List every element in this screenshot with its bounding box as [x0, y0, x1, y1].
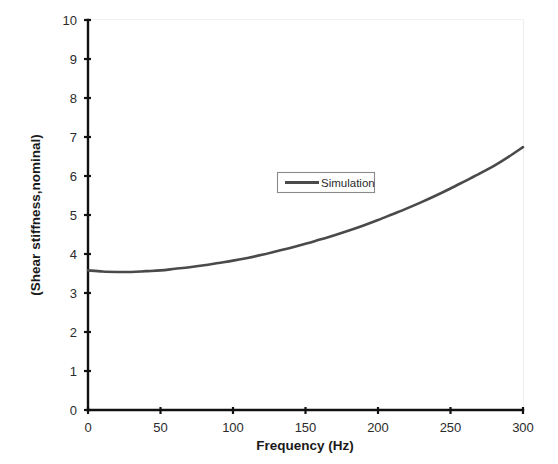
y-tick-label: 7: [70, 130, 77, 145]
y-tick-label: 4: [70, 247, 77, 262]
chart-figure: 012345678910 050100150200250300 Simulati…: [0, 0, 558, 464]
y-tick-label: 0: [70, 403, 77, 418]
y-tick-label: 10: [63, 13, 77, 28]
x-axis-title: Frequency (Hz): [256, 438, 354, 453]
y-tick-label: 1: [70, 364, 77, 379]
y-tick-label: 2: [70, 325, 77, 340]
plot-area-background: [88, 20, 523, 410]
y-tick-label: 5: [70, 208, 77, 223]
x-tick-label: 200: [367, 420, 389, 435]
line-chart: 012345678910 050100150200250300 Simulati…: [0, 0, 558, 464]
x-tick-label: 300: [512, 420, 534, 435]
x-tick-label: 250: [440, 420, 462, 435]
plot-frame: [88, 20, 523, 410]
y-tick-label: 8: [70, 91, 77, 106]
y-tick-label: 3: [70, 286, 77, 301]
y-axis-title: (Shear stiffness,nominal): [28, 134, 43, 295]
legend-label-simulation: Simulation: [321, 177, 375, 189]
chart-legend[interactable]: Simulation: [278, 173, 375, 193]
x-tick-label: 50: [153, 420, 167, 435]
x-tick-label: 0: [84, 420, 91, 435]
y-tick-label: 6: [70, 169, 77, 184]
y-tick-label: 9: [70, 52, 77, 67]
x-tick-label: 150: [295, 420, 317, 435]
x-tick-label: 100: [222, 420, 244, 435]
